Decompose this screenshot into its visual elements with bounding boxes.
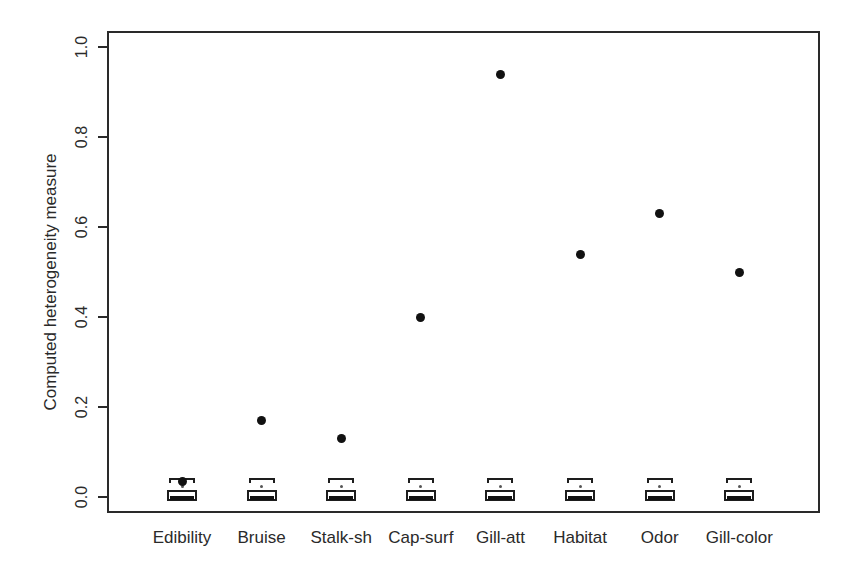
median-line	[329, 496, 353, 500]
whisker-cap	[487, 478, 513, 483]
y-axis-title-text: Computed heterogeneity measure	[41, 153, 61, 410]
y-tick-label: 0.0	[73, 486, 91, 508]
iqr-box	[565, 490, 595, 501]
whisker-cap	[249, 478, 275, 483]
x-category-label: Gill-color	[689, 528, 789, 548]
data-point	[337, 434, 346, 443]
iqr-box	[724, 490, 754, 501]
y-tick-label: 0.4	[73, 306, 91, 328]
y-tick-label: 0.2	[73, 396, 91, 418]
median-line	[568, 496, 592, 500]
data-point	[576, 250, 585, 259]
median-line	[170, 496, 194, 500]
iqr-box	[645, 490, 675, 501]
iqr-box	[247, 490, 277, 501]
y-tick	[98, 406, 107, 408]
median-line	[250, 496, 274, 500]
median-line	[727, 496, 751, 500]
y-tick	[98, 496, 107, 498]
data-point	[178, 477, 187, 486]
median-line	[409, 496, 433, 500]
data-point	[735, 268, 744, 277]
whisker-cap	[647, 478, 673, 483]
iqr-box	[485, 490, 515, 501]
whisker-cap	[328, 478, 354, 483]
mean-marker	[340, 485, 343, 488]
mean-marker	[738, 485, 741, 488]
iqr-box	[406, 490, 436, 501]
y-tick-label: 0.6	[73, 216, 91, 238]
iqr-box	[326, 490, 356, 501]
plot-area	[107, 31, 820, 513]
y-tick	[98, 226, 107, 228]
median-line	[488, 496, 512, 500]
y-tick	[98, 46, 107, 48]
whisker-cap	[408, 478, 434, 483]
median-line	[648, 496, 672, 500]
boxplot-figure: Computed heterogeneity measure 0.00.20.4…	[0, 0, 860, 573]
iqr-box	[167, 490, 197, 501]
whisker-cap	[567, 478, 593, 483]
mean-marker	[579, 485, 582, 488]
y-tick	[98, 136, 107, 138]
data-point	[416, 313, 425, 322]
whisker-cap	[726, 478, 752, 483]
y-tick-label: 0.8	[73, 126, 91, 148]
y-tick-label: 1.0	[73, 36, 91, 58]
data-point	[496, 70, 505, 79]
y-tick	[98, 316, 107, 318]
